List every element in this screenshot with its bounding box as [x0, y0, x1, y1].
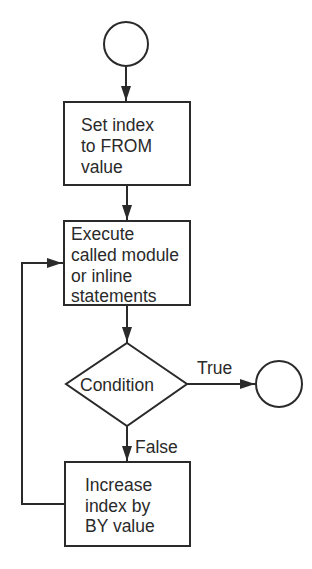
node-execute-line-1: Execute: [71, 224, 134, 244]
node-set-index-line-2: to FROM: [81, 136, 152, 156]
edge-true-label: True: [197, 358, 232, 378]
end-terminal: [256, 361, 302, 407]
edge-condition-to-increase-index: False: [122, 426, 178, 462]
node-condition: Condition: [66, 343, 187, 426]
flowchart: Set index to FROM value Execute called m…: [0, 0, 312, 569]
node-set-index-line-1: Set index: [81, 115, 154, 135]
node-execute-line-2: called module: [71, 245, 179, 265]
node-condition-label: Condition: [80, 375, 154, 395]
start-terminal: [104, 22, 148, 66]
node-increase-index-line-2: index by: [85, 496, 150, 516]
node-execute-line-3: or inline: [71, 266, 132, 286]
node-increase-index: Increase index by BY value: [65, 462, 190, 546]
edge-execute-to-condition: [122, 305, 132, 343]
node-set-index-line-3: value: [81, 157, 123, 177]
node-increase-index-line-1: Increase: [85, 475, 152, 495]
node-set-index: Set index to FROM value: [64, 102, 190, 185]
edge-false-label: False: [135, 437, 178, 457]
edge-increase-index-to-execute-loop: [22, 258, 65, 504]
edge-condition-to-end: True: [187, 358, 256, 389]
node-execute: Execute called module or inline statemen…: [64, 221, 190, 306]
edge-start-to-set-index: [121, 66, 131, 102]
node-increase-index-line-3: BY value: [85, 516, 155, 536]
node-execute-line-4: statements: [71, 286, 157, 306]
edge-set-index-to-execute: [122, 185, 132, 221]
